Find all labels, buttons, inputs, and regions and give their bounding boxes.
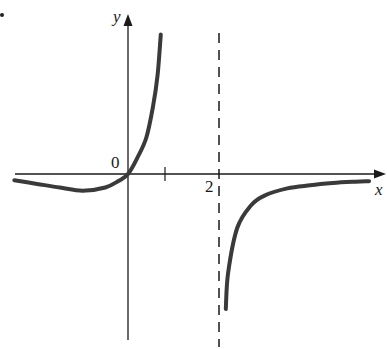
- curve-right-branch: [226, 181, 369, 309]
- y-axis-arrow-icon: [124, 14, 133, 26]
- curve-left-branch: [14, 35, 161, 191]
- x-axis-arrow-icon: [374, 170, 386, 179]
- x-tick-label-2: 2: [205, 178, 214, 195]
- function-graph: [0, 0, 387, 349]
- origin-label: 0: [111, 154, 120, 171]
- y-axis-label: y: [113, 8, 121, 25]
- x-axis-label: x: [375, 181, 383, 198]
